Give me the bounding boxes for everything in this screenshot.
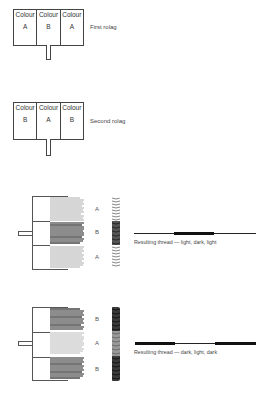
frame-divider xyxy=(32,245,50,246)
cell-letter: A xyxy=(61,23,83,31)
cell-letter: A xyxy=(14,23,36,31)
section-letter: A xyxy=(95,340,99,346)
section-letter: A xyxy=(95,254,99,260)
rolag-cell: Colour A xyxy=(61,10,83,45)
cell-heading: Colour xyxy=(39,11,58,18)
rolag-box: Colour A Colour B Colour A xyxy=(13,9,84,46)
cell-letter: B xyxy=(61,116,83,124)
frame-divider xyxy=(32,357,50,358)
cell-heading: Colour xyxy=(16,104,35,111)
rolag-label: Second rolag xyxy=(90,118,125,124)
fibre-stripes xyxy=(50,196,85,270)
thread-caption: Resulting thread — dark, light, dark xyxy=(134,349,217,355)
rolag-cell: Colour A xyxy=(37,103,60,139)
rolag-cell: Colour B xyxy=(61,103,83,139)
frame-divider xyxy=(32,221,50,222)
twisted-yarn xyxy=(111,197,120,270)
frame-divider xyxy=(32,332,50,333)
rolag-cell: Colour B xyxy=(37,10,60,45)
spindle-shaft xyxy=(18,231,33,236)
section-letter: A xyxy=(95,206,99,212)
section-letter: B xyxy=(95,366,99,372)
cell-heading: Colour xyxy=(62,104,81,111)
thread-dark-segment xyxy=(135,342,175,345)
fibre-stripes xyxy=(50,307,85,381)
twisted-yarn xyxy=(111,307,120,381)
rolag-cell: Colour A xyxy=(14,10,37,45)
section-letter: B xyxy=(95,316,99,322)
rolag-stem xyxy=(46,45,51,60)
rolag-label: First rolag xyxy=(90,24,117,30)
thread-dark-segment xyxy=(174,232,214,235)
rolag-stem xyxy=(46,139,51,156)
cell-heading: Colour xyxy=(16,11,35,18)
section-letter: B xyxy=(95,229,99,235)
thread-caption: Resulting thread — light, dark, light xyxy=(134,239,216,245)
cell-letter: B xyxy=(14,116,36,124)
cell-heading: Colour xyxy=(62,11,81,18)
cell-heading: Colour xyxy=(39,104,58,111)
cell-letter: B xyxy=(37,23,59,31)
rolag-cell: Colour B xyxy=(14,103,37,139)
spindle-shaft xyxy=(18,341,33,346)
rolag-box: Colour B Colour A Colour B xyxy=(13,102,84,140)
thread-dark-segment xyxy=(215,342,256,345)
cell-letter: A xyxy=(37,116,59,124)
